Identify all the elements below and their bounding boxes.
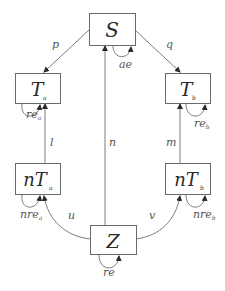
node-Tb: T b xyxy=(166,74,211,104)
loop-label-re-a-sub: a xyxy=(38,114,42,121)
loop-label-ae: ae xyxy=(119,58,133,71)
node-nTa-sub: a xyxy=(49,184,53,191)
edge-label-n: n xyxy=(109,136,116,149)
loop-label-re: re xyxy=(103,266,115,279)
loop-label-nre-a-sub: a xyxy=(39,214,43,221)
edge-u xyxy=(44,196,90,239)
self-loop-ae xyxy=(113,46,131,57)
node-nTb: nT b xyxy=(166,164,211,195)
node-Z: Z xyxy=(91,226,137,255)
loop-label-re-b-main: re xyxy=(194,117,206,130)
loop-label-nre-b: nreb xyxy=(193,208,216,221)
node-S: S xyxy=(90,14,136,46)
loop-label-nre-a: nrea xyxy=(20,208,43,221)
loop-label-nre-b-main: nre xyxy=(193,208,212,221)
edge-label-q: q xyxy=(166,38,173,51)
self-loop-nre-a xyxy=(22,195,40,207)
node-nTa-label: nT xyxy=(23,169,49,190)
self-loop-nre-b xyxy=(186,195,205,207)
edge-label-m: m xyxy=(166,136,176,149)
node-nTb-sub: b xyxy=(200,184,204,191)
node-Tb-sub: b xyxy=(192,94,196,101)
loop-label-re-a-main: re xyxy=(26,108,38,121)
node-S-label: S xyxy=(105,18,119,42)
self-loop-re-b xyxy=(186,104,205,116)
node-Ta-sub: a xyxy=(43,94,47,101)
loop-label-re-b: reb xyxy=(194,117,210,130)
edge-label-u: u xyxy=(68,209,75,222)
edge-label-l: l xyxy=(50,136,54,149)
edge-q xyxy=(135,30,180,72)
node-Ta: T a xyxy=(16,74,61,104)
state-diagram: S T a T b nT a nT b Z p q n l m u v ae r… xyxy=(0,0,225,291)
edge-p xyxy=(44,30,89,72)
loop-label-nre-b-sub: b xyxy=(212,214,216,221)
edge-label-p: p xyxy=(52,38,59,51)
edge-v xyxy=(136,196,180,239)
node-nTb-label: nT xyxy=(174,169,200,190)
loop-label-re-a: rea xyxy=(26,108,42,121)
node-nTa: nT a xyxy=(16,164,61,195)
node-Z-label: Z xyxy=(105,230,120,252)
loop-label-nre-a-main: nre xyxy=(20,208,39,221)
edge-label-v: v xyxy=(149,209,156,222)
loop-label-re-b-sub: b xyxy=(206,123,210,130)
